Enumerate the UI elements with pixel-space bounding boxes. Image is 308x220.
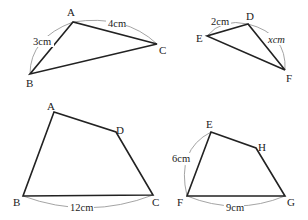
measure-fg: 9cm	[226, 202, 244, 213]
quadrilateral-abcd-edges	[23, 112, 153, 196]
vertex-label-h2: H	[258, 141, 266, 153]
vertex-label-a2: A	[47, 100, 55, 112]
vertex-label-f2: F	[177, 196, 183, 208]
triangle-def-edges	[207, 24, 285, 70]
quadrilateral-efgh: 6cm 9cm E F G H	[171, 118, 295, 214]
measure-ac: 4cm	[108, 18, 126, 29]
triangle-abc-edges	[30, 22, 157, 74]
vertex-label-a: A	[67, 6, 75, 18]
quadrilateral-abcd: 12cm A B C D	[13, 100, 159, 214]
vertex-label-e: E	[196, 32, 203, 44]
vertex-label-d2: D	[116, 124, 124, 136]
vertex-label-c: C	[159, 44, 166, 56]
quadrilateral-efgh-edges	[187, 132, 285, 196]
measure-ef: 6cm	[172, 153, 190, 164]
measure-df: xcm	[267, 34, 285, 45]
vertex-label-e2: E	[206, 118, 213, 130]
geometry-diagram: 3cm 4cm A B C 2cm xcm D E F 12cm A B C D…	[0, 0, 308, 220]
vertex-label-g2: G	[287, 196, 295, 208]
measure-ed: 2cm	[211, 16, 229, 27]
measure-bc: 12cm	[70, 202, 93, 213]
vertex-label-b2: B	[13, 196, 20, 208]
vertex-label-b: B	[26, 77, 33, 89]
triangle-def: 2cm xcm D E F	[196, 10, 292, 84]
vertex-label-c2: C	[152, 196, 159, 208]
measure-ab: 3cm	[33, 36, 51, 47]
triangle-abc: 3cm 4cm A B C	[26, 6, 166, 89]
vertex-label-d: D	[246, 10, 254, 22]
vertex-label-f: F	[286, 72, 292, 84]
